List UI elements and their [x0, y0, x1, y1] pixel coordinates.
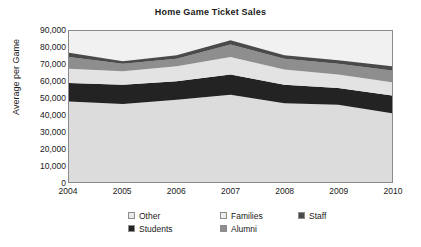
legend-swatch-other-icon — [128, 212, 135, 219]
legend-swatch-alumni-icon — [220, 225, 227, 232]
legend-item-alumni[interactable]: Alumni — [220, 224, 298, 234]
legend-swatch-students-icon — [128, 225, 135, 232]
y-axis-tick: 60,000 — [6, 77, 66, 86]
stacked-area-plot — [69, 31, 392, 182]
y-axis-tick: 40,000 — [6, 111, 66, 120]
y-axis-tick: 90,000 — [6, 26, 66, 35]
y-axis-tick: 50,000 — [6, 94, 66, 103]
legend-swatch-staff-icon — [298, 212, 305, 219]
chart-container: Home Game Ticket Sales Average per Game … — [0, 0, 421, 247]
chart-title: Home Game Ticket Sales — [0, 7, 421, 17]
x-axis-tick: 2004 — [45, 186, 91, 196]
legend-swatch-families-icon — [220, 212, 227, 219]
legend-item-students[interactable]: Students — [128, 224, 220, 234]
legend-row-2: StudentsAlumni — [0, 222, 421, 235]
x-axis-tick: 2010 — [370, 186, 416, 196]
legend-label: Other — [139, 211, 160, 221]
legend-item-families[interactable]: Families — [220, 211, 298, 221]
y-axis-tick: 80,000 — [6, 43, 66, 52]
legend-row-1: OtherFamiliesStaff — [0, 209, 421, 222]
x-axis-tick: 2006 — [153, 186, 199, 196]
x-axis-tick: 2005 — [99, 186, 145, 196]
x-axis-tick: 2007 — [208, 186, 254, 196]
plot-area — [68, 30, 393, 183]
y-axis-tick: 70,000 — [6, 60, 66, 69]
x-axis-tick: 2009 — [316, 186, 362, 196]
x-axis-tick: 2008 — [262, 186, 308, 196]
area-series-other — [69, 95, 392, 182]
y-axis-tick: 30,000 — [6, 128, 66, 137]
y-axis-tick: 20,000 — [6, 145, 66, 154]
legend-item-staff[interactable]: Staff — [298, 211, 358, 221]
area-series-group — [69, 40, 392, 182]
legend-label: Students — [139, 224, 173, 234]
legend-label: Alumni — [231, 224, 257, 234]
y-axis-tick: 10,000 — [6, 162, 66, 171]
chart-legend: OtherFamiliesStaff StudentsAlumni — [0, 209, 421, 235]
legend-label: Families — [231, 211, 263, 221]
legend-item-other[interactable]: Other — [128, 211, 220, 221]
legend-label: Staff — [309, 211, 326, 221]
